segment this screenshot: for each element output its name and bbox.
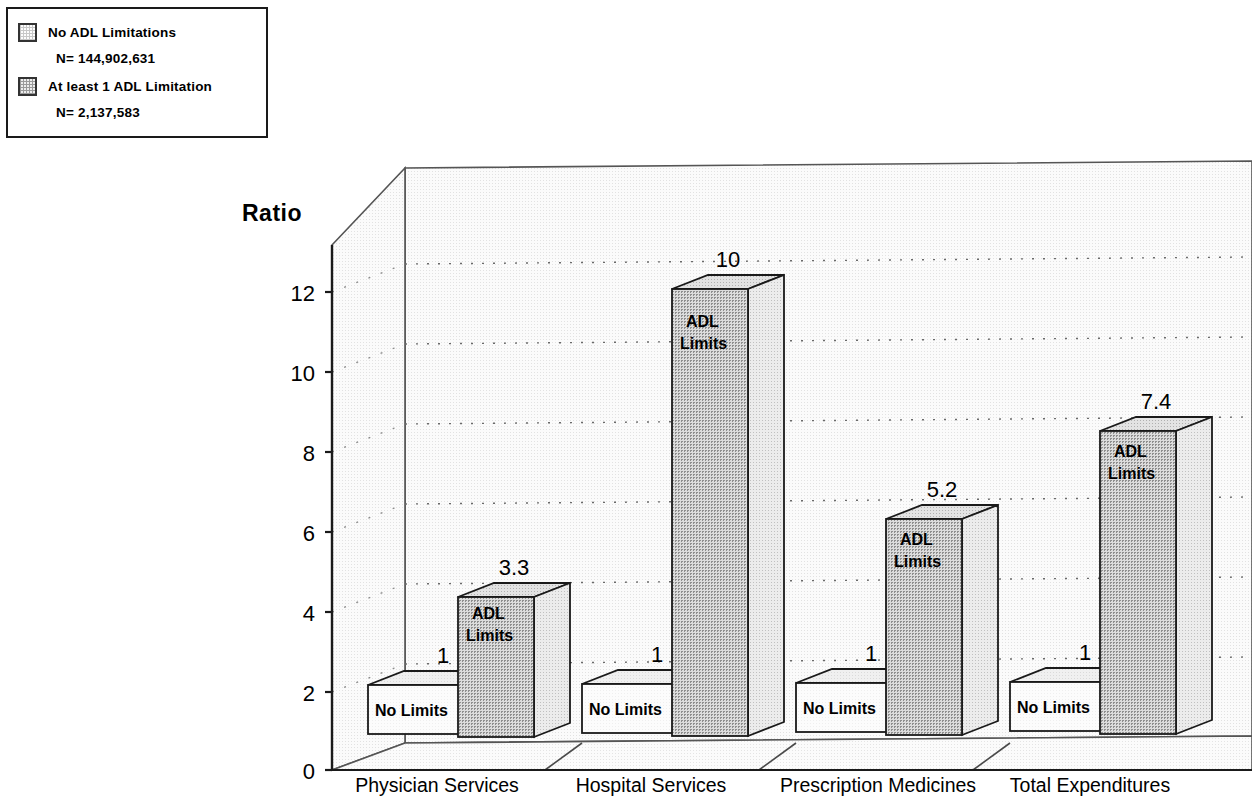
value-label-no-limits-2: 1 [651, 642, 663, 667]
value-label-no-limits-1: 1 [437, 643, 449, 668]
bar-side-face [748, 275, 784, 736]
bar-adl-limits-1[interactable]: ADL Limits [458, 583, 570, 737]
y-tick-label-4: 4 [303, 601, 315, 626]
y-tick-label-8: 8 [303, 441, 315, 466]
bar-side-face [962, 505, 998, 735]
value-label-adl-limits-4: 7.4 [1141, 389, 1172, 414]
value-label-adl-limits-2: 10 [716, 247, 740, 272]
bar-label-adl-limits-line1: ADL [900, 531, 933, 548]
y-axis: 0 2 4 6 8 10 12 Ratio [242, 200, 332, 784]
value-label-adl-limits-3: 5.2 [927, 477, 958, 502]
y-tick-label-0: 0 [303, 759, 315, 784]
bar-label-adl-limits-line1: ADL [686, 313, 719, 330]
ratio-bar-chart: 0 2 4 6 8 10 12 Ratio No Limits ADL Limi… [0, 0, 1252, 799]
x-label-total-expenditures: Total Expenditures [1010, 774, 1171, 796]
value-label-adl-limits-1: 3.3 [499, 555, 530, 580]
value-label-no-limits-3: 1 [865, 641, 877, 666]
bar-label-adl-limits-line1: ADL [1114, 443, 1147, 460]
x-axis-labels: Physician Services Hospital Services Pre… [355, 774, 1170, 796]
bar-front-face [886, 519, 962, 735]
bar-label-no-limits: No Limits [1017, 699, 1090, 716]
y-tick-label-10: 10 [291, 361, 315, 386]
bar-adl-limits-2[interactable]: ADL Limits [672, 275, 784, 736]
x-label-hospital-services: Hospital Services [576, 774, 727, 796]
bar-adl-limits-4[interactable]: ADL Limits [1100, 417, 1212, 734]
y-tick-label-6: 6 [303, 521, 315, 546]
bar-label-adl-limits-line1: ADL [472, 605, 505, 622]
bar-label-no-limits: No Limits [375, 702, 448, 719]
bar-side-face [534, 583, 570, 737]
value-label-no-limits-4: 1 [1079, 640, 1091, 665]
x-label-physician-services: Physician Services [355, 774, 519, 796]
bar-side-face [1176, 417, 1212, 734]
y-tick-label-2: 2 [303, 681, 315, 706]
x-label-prescription-medicines: Prescription Medicines [780, 774, 976, 796]
bar-front-face [672, 289, 748, 736]
y-axis-title: Ratio [242, 200, 302, 226]
bar-label-no-limits: No Limits [589, 701, 662, 718]
bar-label-adl-limits-line2: Limits [680, 335, 727, 352]
bar-label-adl-limits-line2: Limits [1108, 465, 1155, 482]
bar-label-adl-limits-line2: Limits [466, 627, 513, 644]
bar-label-no-limits: No Limits [803, 700, 876, 717]
bar-adl-limits-3[interactable]: ADL Limits [886, 505, 998, 735]
bar-label-adl-limits-line2: Limits [894, 553, 941, 570]
y-tick-label-12: 12 [291, 281, 315, 306]
